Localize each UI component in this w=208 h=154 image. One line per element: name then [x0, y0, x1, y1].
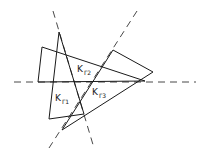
label-main: K	[92, 87, 99, 97]
diagram-canvas: K Γ2 K Γ1 K Γ3	[0, 0, 208, 154]
label-main: K	[55, 93, 62, 103]
label-main: K	[77, 64, 84, 74]
triangle-rotated	[62, 50, 153, 130]
triangle-tall	[49, 32, 84, 119]
label-subscript: Γ1	[62, 98, 69, 105]
diagonal-dashed-axis	[49, 11, 137, 148]
label-k-gamma-2: K Γ2	[77, 64, 91, 76]
label-k-gamma-1: K Γ1	[55, 93, 69, 105]
label-subscript: Γ3	[99, 92, 106, 99]
label-subscript: Γ2	[84, 69, 91, 76]
label-k-gamma-3: K Γ3	[92, 87, 106, 99]
